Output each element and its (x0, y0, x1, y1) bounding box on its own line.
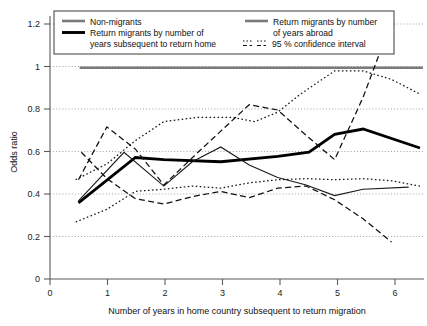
legend-label-subsequent-return-line1: Return migrants by number of (90, 28, 204, 38)
legend-label-years-abroad-line2: of years abroad (273, 28, 333, 38)
y-tick-label-0-2: 0.2 (27, 232, 40, 242)
x-tick-label-4: 4 (277, 288, 282, 298)
legend-label-confidence-interval: 95 % confidence interval (272, 39, 366, 49)
y-tick-label-0: 0 (35, 274, 40, 284)
chart-figure: 1.2 1 0.8 0.6 0.4 0.2 0 0 1 2 3 4 5 6 Nu… (0, 0, 427, 326)
y-tick-label-1-0: 1 (35, 62, 40, 72)
y-tick-label-0-4: 0.4 (27, 189, 40, 199)
y-tick-label-0-8: 0.8 (27, 104, 40, 114)
x-tick-label-1: 1 (105, 288, 110, 298)
x-tick-label-3: 3 (220, 288, 225, 298)
x-tick-label-5: 5 (335, 288, 340, 298)
legend-label-non-migrants: Non-migrants (90, 17, 142, 27)
legend-label-subsequent-return-line2: years subsequent to return home (90, 39, 216, 49)
odds-ratio-line-chart: 1.2 1 0.8 0.6 0.4 0.2 0 0 1 2 3 4 5 6 Nu… (0, 0, 427, 326)
x-tick-label-6: 6 (392, 288, 397, 298)
chart-legend: Non-migrants Return migrants by number o… (54, 11, 394, 54)
x-axis-title: Number of years in home country subseque… (108, 306, 366, 316)
y-tick-label-1-2: 1.2 (27, 19, 40, 29)
x-tick-label-2: 2 (162, 288, 167, 298)
legend-label-years-abroad-line1: Return migrants by number (273, 17, 377, 27)
y-tick-label-0-6: 0.6 (27, 147, 40, 157)
y-axis-title: Odds ratio (9, 131, 19, 173)
x-tick-label-0: 0 (47, 288, 52, 298)
